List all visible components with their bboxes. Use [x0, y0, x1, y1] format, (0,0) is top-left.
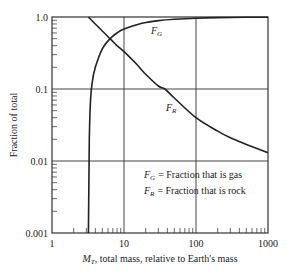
data-series — [88, 17, 268, 233]
x-tick-label: 1000 — [258, 238, 278, 249]
x-tick-label: 10 — [119, 238, 129, 249]
x-axis-tick-labels: 1101001000 — [50, 238, 279, 249]
minor-ticks — [52, 20, 265, 233]
series-line-f-g — [88, 17, 268, 233]
x-tick-label: 100 — [189, 238, 204, 249]
y-axis-title: Fraction of total — [8, 93, 19, 158]
curve-labels: FG FR — [150, 25, 177, 115]
y-tick-label: 0.01 — [31, 156, 49, 167]
legend-entry-rock: FR= Fraction that is rock — [143, 185, 246, 198]
legend-entry-gas: FG= Fraction that is gas — [143, 169, 242, 182]
y-tick-label: 1.0 — [36, 12, 49, 23]
x-axis-title: MT, total mass, relative to Earth's mass — [81, 253, 237, 266]
x-tick-label: 1 — [50, 238, 55, 249]
y-axis-tick-labels: 1.00.10.010.001 — [26, 12, 49, 239]
curve-label-gas: FG — [150, 25, 162, 38]
grid-lines — [52, 17, 268, 233]
y-tick-label: 0.001 — [26, 228, 49, 239]
plot-frame — [52, 17, 268, 233]
y-tick-label: 0.1 — [36, 84, 49, 95]
x-axis-title-rest: , total mass, relative to Earth's mass — [95, 253, 238, 264]
curve-label-rock: FR — [165, 102, 177, 115]
chart: 1101001000 1.00.10.010.001 Fraction of t… — [0, 0, 291, 274]
legend: FG= Fraction that is gas FR= Fraction th… — [143, 169, 246, 198]
series-line-f-r — [88, 17, 268, 153]
